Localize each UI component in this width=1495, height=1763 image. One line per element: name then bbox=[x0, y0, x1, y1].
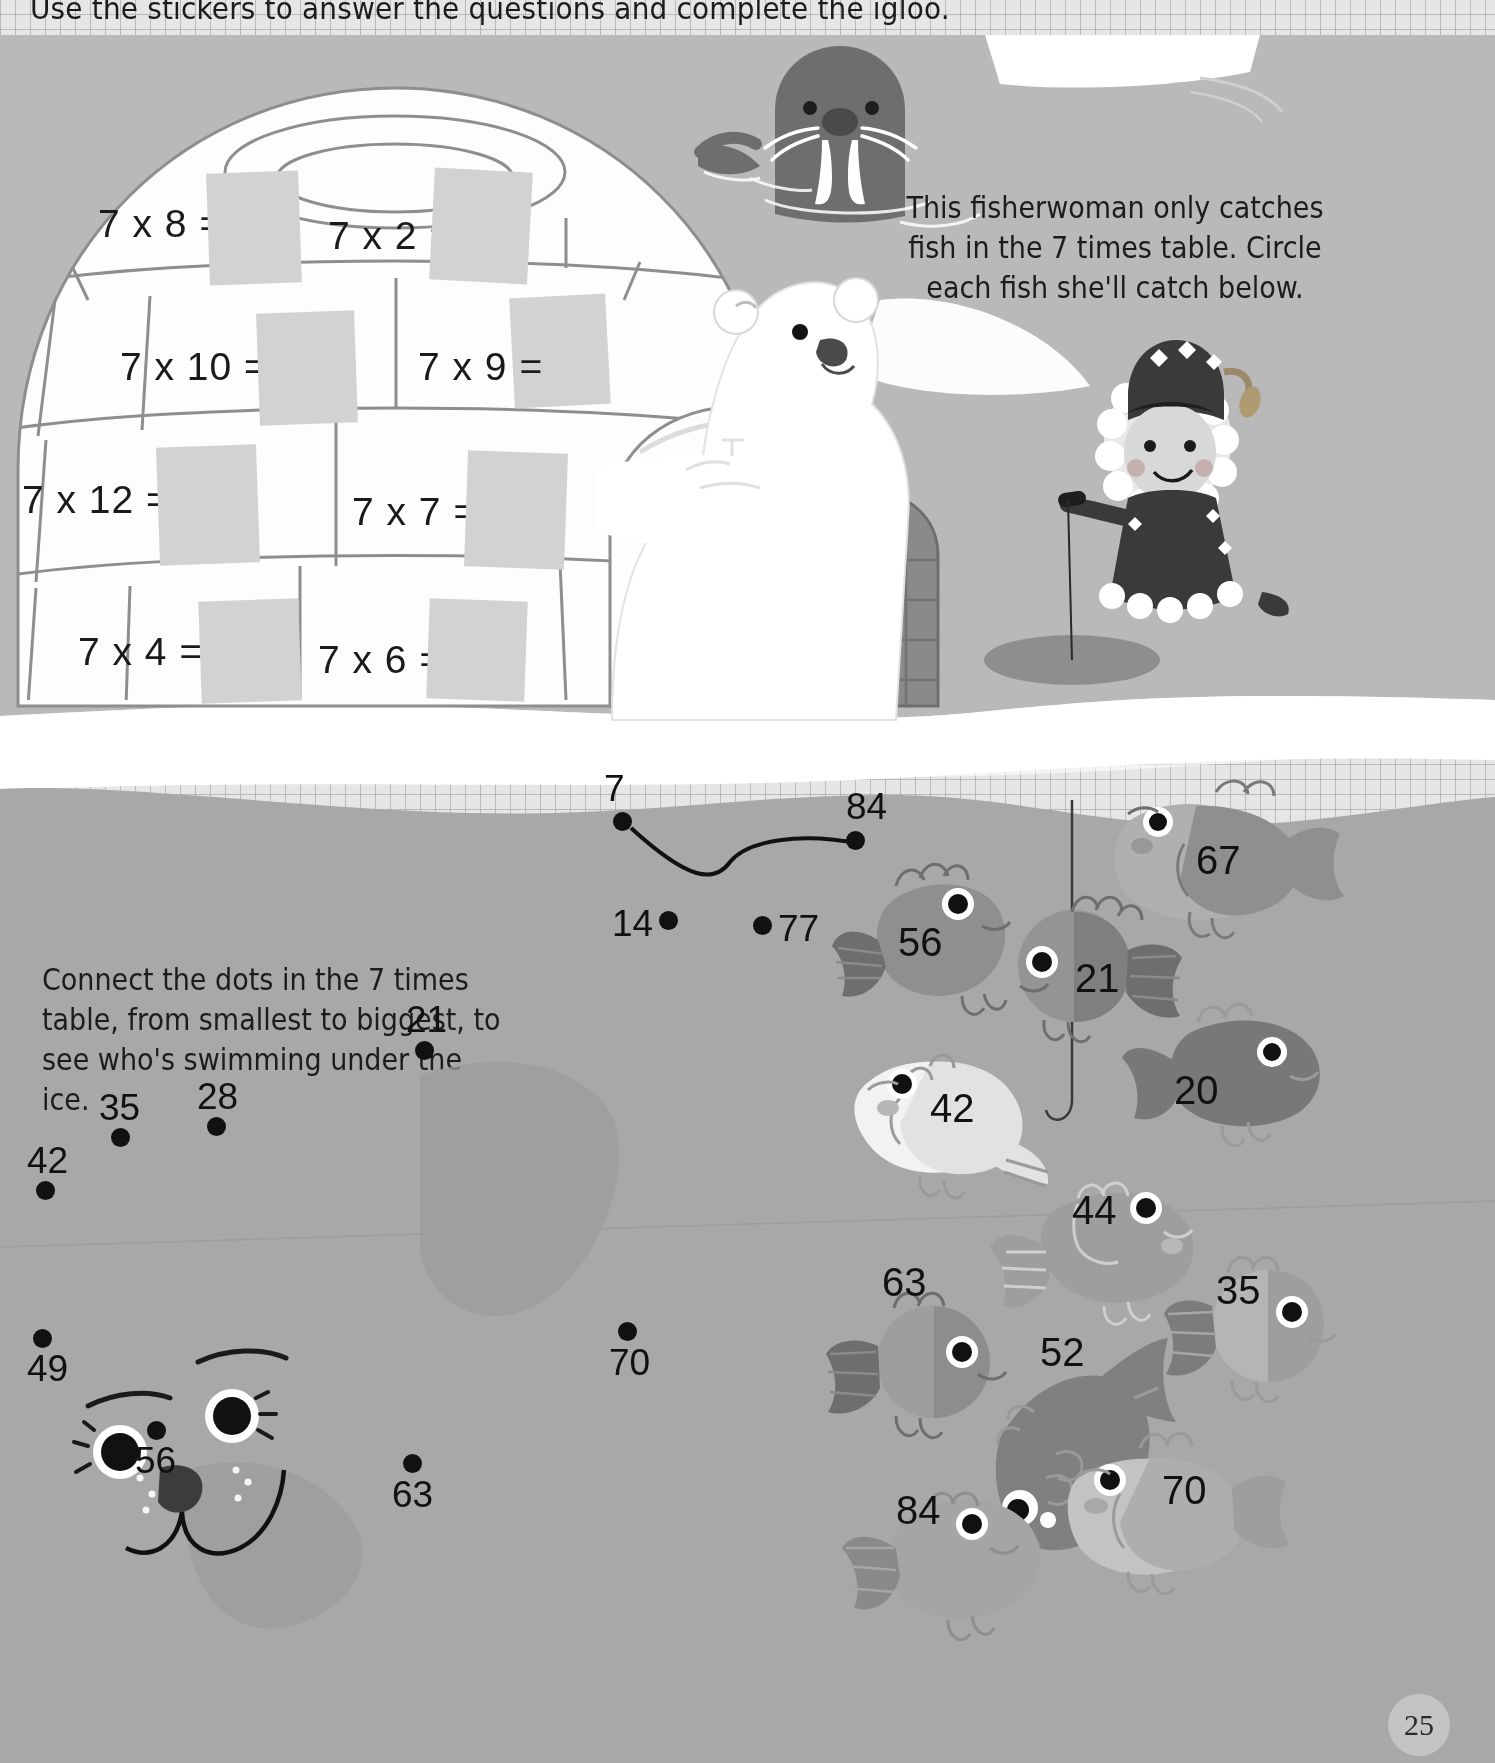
fish-20 bbox=[1122, 1004, 1320, 1145]
fish-number-67: 67 bbox=[1196, 838, 1241, 883]
fish-number-52: 52 bbox=[1040, 1330, 1085, 1375]
worksheet-page: 7 x 8 = 7 x 2 = 7 x 10 = 7 x 9 = 7 x 12 … bbox=[0, 0, 1495, 1763]
fish-number-63: 63 bbox=[882, 1260, 927, 1305]
fish-number-42: 42 bbox=[930, 1086, 975, 1131]
fish-group bbox=[0, 0, 1495, 1763]
page-number: 25 bbox=[1388, 1694, 1450, 1756]
fish-number-70: 70 bbox=[1162, 1468, 1207, 1513]
fish-number-44: 44 bbox=[1072, 1188, 1117, 1233]
page-title: Use the stickers to answer the questions… bbox=[30, 0, 1230, 26]
fish-number-56: 56 bbox=[898, 920, 943, 965]
fish-number-35: 35 bbox=[1216, 1268, 1261, 1313]
fish-number-84: 84 bbox=[896, 1488, 941, 1533]
fish-number-21: 21 bbox=[1075, 956, 1120, 1001]
fish-63 bbox=[826, 1293, 1006, 1438]
fish-84 bbox=[842, 1493, 1040, 1640]
fish-number-20: 20 bbox=[1174, 1068, 1219, 1113]
